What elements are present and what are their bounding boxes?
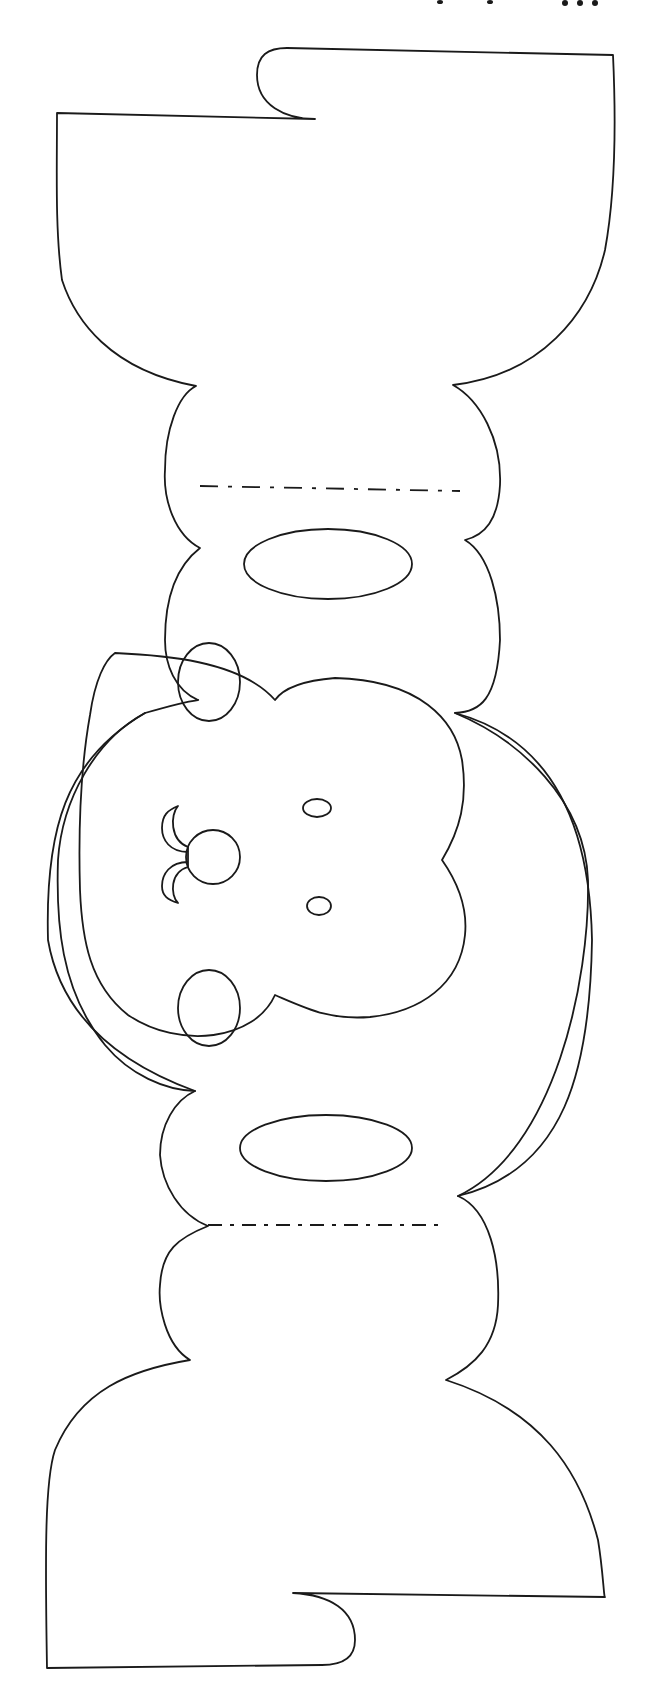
outer-face-frame (58, 713, 588, 1196)
lower-nostril-icon (307, 897, 331, 915)
lower-slot (240, 1115, 412, 1181)
inner-face (79, 653, 465, 1036)
upper-slot (244, 529, 412, 599)
upper-eye-icon (178, 643, 240, 721)
nose-icon (186, 830, 240, 884)
lower-eye-icon (178, 970, 240, 1046)
papercraft-template (0, 0, 656, 1704)
top-edge-fragments (437, 0, 598, 6)
upper-fold-line (200, 486, 460, 491)
upper-nostril-icon (303, 799, 331, 817)
mouth-icon (162, 806, 188, 903)
outer-cut-outline (46, 48, 615, 1668)
